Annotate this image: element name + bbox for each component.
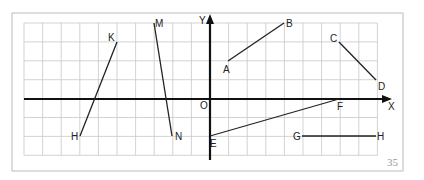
point-label: H [71, 131, 78, 142]
point-label: M [155, 18, 163, 29]
point-label: B [286, 18, 293, 29]
point-label: D [378, 81, 385, 92]
coordinate-diagram: X Y O ABCDEFGHHKMN 35 [0, 0, 424, 180]
point-label: A [223, 64, 230, 75]
point-label: K [108, 32, 115, 43]
page-number: 35 [387, 156, 399, 168]
origin-label: O [200, 100, 208, 111]
point-label: E [210, 138, 217, 149]
point-label: C [330, 33, 337, 44]
x-axis-label: X [388, 101, 395, 112]
point-label: H [377, 131, 384, 142]
point-label: N [175, 131, 182, 142]
point-label: F [337, 101, 343, 112]
point-label: G [293, 131, 301, 142]
y-axis-label: Y [199, 15, 206, 26]
page-border [12, 13, 403, 171]
